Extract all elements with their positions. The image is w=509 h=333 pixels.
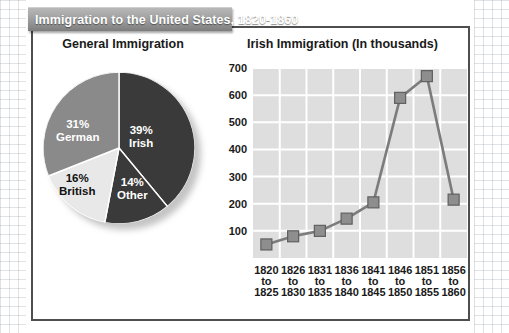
data-point-3 — [341, 213, 352, 224]
x-axis-label-2-line-2: 1835 — [308, 286, 332, 298]
data-point-5 — [395, 92, 406, 103]
pie-slices — [43, 72, 195, 224]
page-root: Immigration to the United States, 1820-1… — [0, 0, 509, 333]
pie-chart-heading: General Immigration — [33, 28, 213, 51]
line-chart-heading: Irish Immigration (In thousands) — [213, 28, 468, 51]
x-axis-label-5-line-2: 1850 — [388, 286, 412, 298]
x-axis-label-6-line-2: 1855 — [415, 286, 439, 298]
y-axis-tick-300: 300 — [229, 171, 247, 183]
y-axis-tick-600: 600 — [229, 89, 247, 101]
x-axis-label-0-line-2: 1825 — [254, 286, 278, 298]
x-axis-label-3-line-2: 1840 — [334, 286, 358, 298]
page-title: Immigration to the United States, 1820-1… — [35, 13, 298, 27]
title-banner: Immigration to the United States, 1820-1… — [28, 7, 232, 31]
data-point-0 — [261, 239, 272, 250]
y-axis-tick-100: 100 — [229, 225, 247, 237]
y-axis-tick-200: 200 — [229, 198, 247, 210]
y-axis-tick-700: 700 — [229, 62, 247, 74]
y-axis-tick-400: 400 — [229, 143, 247, 155]
content-frame: General Immigration 39% Irish 31% German — [31, 26, 470, 321]
data-point-7 — [448, 194, 459, 205]
irish-immigration-panel: Irish Immigration (In thousands) 1002003… — [213, 28, 468, 319]
pie-svg — [43, 72, 195, 224]
data-point-6 — [421, 71, 432, 82]
data-point-1 — [288, 231, 299, 242]
general-immigration-panel: General Immigration 39% Irish 31% German — [33, 28, 213, 319]
data-point-4 — [368, 197, 379, 208]
x-axis-label-4-line-2: 1845 — [361, 286, 385, 298]
line-chart: 100200300400500600700 1820to18251826to18… — [221, 62, 469, 318]
graph-paper-texture-left — [0, 0, 26, 333]
y-axis-tick-500: 500 — [229, 116, 247, 128]
x-axis-label-1-line-2: 1830 — [281, 286, 305, 298]
pie-chart: 39% Irish 31% German 16% British 14% Oth… — [43, 72, 203, 232]
graph-paper-texture-right — [474, 0, 509, 333]
data-point-2 — [314, 225, 325, 236]
line-chart-svg: 100200300400500600700 1820to18251826to18… — [221, 62, 469, 318]
x-axis-label-7-line-2: 1860 — [441, 286, 465, 298]
